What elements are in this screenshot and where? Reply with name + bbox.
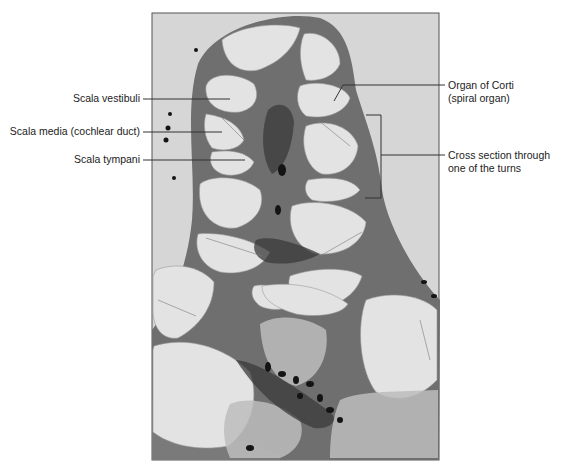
label-cross-section-line1: Cross section through [448, 149, 550, 162]
label-organ-of-corti-line2: (spiral organ) [448, 92, 514, 105]
micrograph-photo [152, 13, 440, 460]
label-cross-section: Cross section through one of the turns [448, 149, 550, 175]
label-organ-of-corti-line1: Organ of Corti [448, 79, 514, 92]
label-scala-tympani: Scala tympani [74, 153, 140, 166]
label-organ-of-corti: Organ of Corti (spiral organ) [448, 79, 514, 105]
label-cross-section-line2: one of the turns [448, 162, 550, 175]
cochlea-micrograph-figure [0, 0, 571, 472]
label-scala-media: Scala media (cochlear duct) [10, 125, 140, 138]
label-scala-vestibuli: Scala vestibuli [73, 92, 140, 105]
